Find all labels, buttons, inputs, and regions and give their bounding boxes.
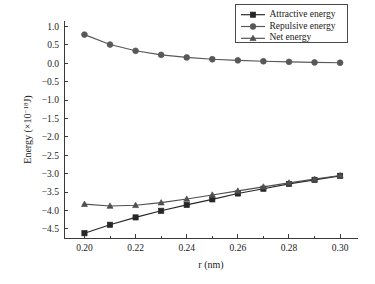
y-axis-title-exponent: −18	[22, 102, 30, 113]
y-axis-title-main: Energy (×10	[22, 114, 34, 164]
series-line	[84, 176, 340, 233]
data-point-circle	[158, 52, 164, 58]
y-tick-label: −0.5	[42, 77, 59, 87]
data-point-circle	[133, 48, 139, 54]
y-tick-label: 1.0	[47, 22, 59, 32]
energy-vs-distance-plot: 1.00.50.0−0.5−1.0−1.5−2.0−2.5−3.0−3.5−4.…	[0, 0, 375, 284]
x-tick-label: 0.20	[76, 243, 93, 253]
series-net-energy	[81, 172, 343, 208]
legend-label-2: Net energy	[270, 32, 312, 42]
data-point-square	[159, 208, 164, 213]
legend-label-1: Repulsive energy	[270, 21, 336, 31]
data-point-square	[250, 12, 255, 17]
series-group	[81, 32, 343, 236]
data-point-circle	[261, 58, 267, 64]
data-point-circle	[184, 55, 190, 61]
y-tick-label: −1.0	[42, 95, 59, 105]
data-point-square	[184, 202, 189, 207]
data-point-circle	[82, 32, 88, 38]
y-tick-label: 0.5	[47, 40, 59, 50]
x-tick-label: 0.22	[127, 243, 144, 253]
y-tick-label: −4.5	[42, 224, 59, 234]
data-point-circle	[209, 56, 215, 62]
x-axis-title: r (nm)	[198, 259, 223, 271]
y-tick-label: −3.5	[42, 187, 59, 197]
x-tick-label: 0.30	[332, 243, 349, 253]
data-point-square	[107, 222, 112, 227]
y-tick-label: 0.0	[47, 59, 59, 69]
x-tick-label: 0.26	[230, 243, 247, 253]
y-axis-title: Energy (×10−18J)	[22, 95, 34, 163]
legend-label-0: Attractive energy	[270, 9, 336, 19]
data-point-square	[133, 215, 138, 220]
axes-group: 1.00.50.0−0.5−1.0−1.5−2.0−2.5−3.0−3.5−4.…	[42, 21, 358, 253]
data-point-circle	[235, 57, 241, 63]
legend-group: Attractive energyRepulsive energyNet ene…	[235, 4, 347, 42]
data-point-circle	[107, 42, 113, 48]
chart-figure: 1.00.50.0−0.5−1.0−1.5−2.0−2.5−3.0−3.5−4.…	[0, 0, 375, 284]
data-point-square	[82, 231, 87, 236]
y-tick-label: −1.5	[42, 114, 59, 124]
x-tick-label: 0.28	[281, 243, 298, 253]
y-tick-label: −2.0	[42, 132, 59, 142]
data-point-circle	[286, 59, 292, 65]
data-point-circle	[250, 24, 256, 30]
data-point-circle	[312, 59, 318, 65]
series-attractive-energy	[82, 173, 343, 236]
y-tick-label: −3.0	[42, 169, 59, 179]
data-point-circle	[337, 60, 343, 66]
y-axis-title-unit: J)	[22, 95, 34, 102]
x-tick-label: 0.24	[178, 243, 195, 253]
y-tick-label: −4.0	[42, 206, 59, 216]
y-tick-label: −2.5	[42, 151, 59, 161]
